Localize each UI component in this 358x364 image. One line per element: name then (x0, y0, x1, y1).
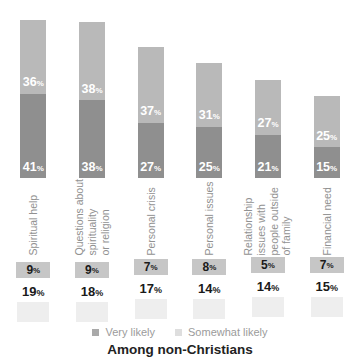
segment-value-label: 41% (23, 161, 44, 174)
segment-very-likely: 38% (79, 100, 105, 178)
bar-area: 31% 25% (180, 0, 239, 178)
segment-value-label: 21% (258, 161, 279, 174)
segment-value-label: 27% (258, 117, 279, 130)
stacked-bar: 36% 41% (20, 20, 46, 178)
legend-label-somewhat-likely: Somewhat likely (188, 326, 267, 338)
bar-column-financial-need: 25% 15% Financial need 7% 15% (297, 0, 356, 317)
somewhat-likely-swatch-icon (175, 329, 182, 336)
very-likely-swatch-icon (92, 329, 99, 336)
segment-somewhat-likely: 36% (20, 20, 46, 94)
legend-item-somewhat-likely: Somewhat likely (175, 326, 267, 338)
bar-columns: 36% 41% Spiritual help 9% 19% 38% 38% (4, 0, 356, 317)
value-rows: 9% 19% (16, 260, 50, 322)
category-label: Financial need (320, 178, 333, 255)
segment-value-label: 25% (316, 130, 337, 143)
boxed-value: 7% (310, 257, 344, 273)
chart-footer-title: Among non-Christians (4, 342, 356, 357)
plain-value: 14% (198, 282, 220, 295)
bar-area: 37% 27% (121, 0, 180, 178)
category-label: Personal crisis (144, 178, 157, 255)
segment-value-label: 38% (81, 83, 102, 96)
plain-value: 15% (315, 280, 337, 293)
stacked-bar: 31% 25% (196, 63, 222, 178)
category-label-area: Financial need (297, 178, 356, 255)
plain-value: 14% (257, 280, 279, 293)
category-label: Spiritual help (27, 178, 40, 255)
segment-value-label: 31% (199, 109, 220, 122)
category-label-area: Relationship issues with people outside … (239, 178, 298, 255)
segment-very-likely: 27% (138, 123, 164, 178)
segment-very-likely: 25% (196, 127, 222, 178)
legend: Very likely Somewhat likely (4, 326, 356, 338)
segment-value-label: 36% (23, 76, 44, 89)
stacked-bar: 37% 27% (138, 47, 164, 178)
boxed-value: 9% (75, 262, 109, 278)
category-label-area: Questions about spirituality or religion (63, 178, 122, 255)
segment-very-likely: 41% (20, 94, 46, 178)
plain-value: 17% (139, 282, 161, 295)
segment-value-label: 15% (316, 161, 337, 174)
bar-area: 27% 21% (239, 0, 298, 178)
segment-value-label: 25% (199, 161, 220, 174)
stacked-bar: 27% 21% (255, 80, 281, 178)
legend-item-very-likely: Very likely (92, 326, 155, 338)
bar-area: 25% 15% (297, 0, 356, 178)
bar-column-relationship: 27% 21% Relationship issues with people … (239, 0, 298, 317)
segment-somewhat-likely: 25% (314, 96, 340, 147)
segment-somewhat-likely: 27% (255, 80, 281, 135)
category-label-area: Personal crisis (121, 178, 180, 255)
plain-value: 18% (81, 285, 103, 298)
boxed-value: 5% (251, 257, 285, 273)
category-label-area: Personal issues (180, 178, 239, 255)
value-rows: 7% 15% (310, 255, 344, 317)
segment-value-label: 37% (140, 105, 161, 118)
faded-box (311, 297, 343, 317)
bar-column-questions-about: 38% 38% Questions about spirituality or … (63, 0, 122, 317)
bar-area: 36% 41% (4, 0, 63, 178)
value-rows: 7% 17% (134, 257, 168, 319)
segment-very-likely: 21% (255, 135, 281, 178)
segment-value-label: 38% (81, 161, 102, 174)
bar-chart: 36% 41% Spiritual help 9% 19% 38% 38% (0, 0, 358, 364)
segment-somewhat-likely: 38% (79, 22, 105, 100)
stacked-bar: 38% 38% (79, 22, 105, 178)
bar-area: 38% 38% (63, 0, 122, 178)
value-rows: 5% 14% (251, 255, 285, 317)
segment-very-likely: 15% (314, 147, 340, 178)
faded-box (76, 302, 108, 322)
category-label: Questions about spirituality or religion (73, 178, 111, 255)
plain-value: 19% (22, 285, 44, 298)
faded-box (193, 299, 225, 319)
faded-box (17, 302, 49, 322)
boxed-value: 9% (16, 262, 50, 278)
legend-label-very-likely: Very likely (105, 326, 155, 338)
bar-column-personal-crisis: 37% 27% Personal crisis 7% 17% (121, 0, 180, 317)
segment-somewhat-likely: 31% (196, 63, 222, 127)
stacked-bar: 25% 15% (314, 96, 340, 178)
category-label-area: Spiritual help (4, 178, 63, 255)
category-label: Relationship issues with people outside … (242, 178, 293, 255)
boxed-value: 7% (134, 259, 168, 275)
faded-box (252, 297, 284, 317)
faded-box (135, 299, 167, 319)
bar-column-spiritual-help: 36% 41% Spiritual help 9% 19% (4, 0, 63, 317)
value-rows: 9% 18% (75, 260, 109, 322)
segment-value-label: 27% (140, 161, 161, 174)
bar-column-personal-issues: 31% 25% Personal issues 8% 14% (180, 0, 239, 317)
boxed-value: 8% (192, 259, 226, 275)
segment-somewhat-likely: 37% (138, 47, 164, 123)
category-label: Personal issues (203, 178, 216, 255)
value-rows: 8% 14% (192, 257, 226, 319)
